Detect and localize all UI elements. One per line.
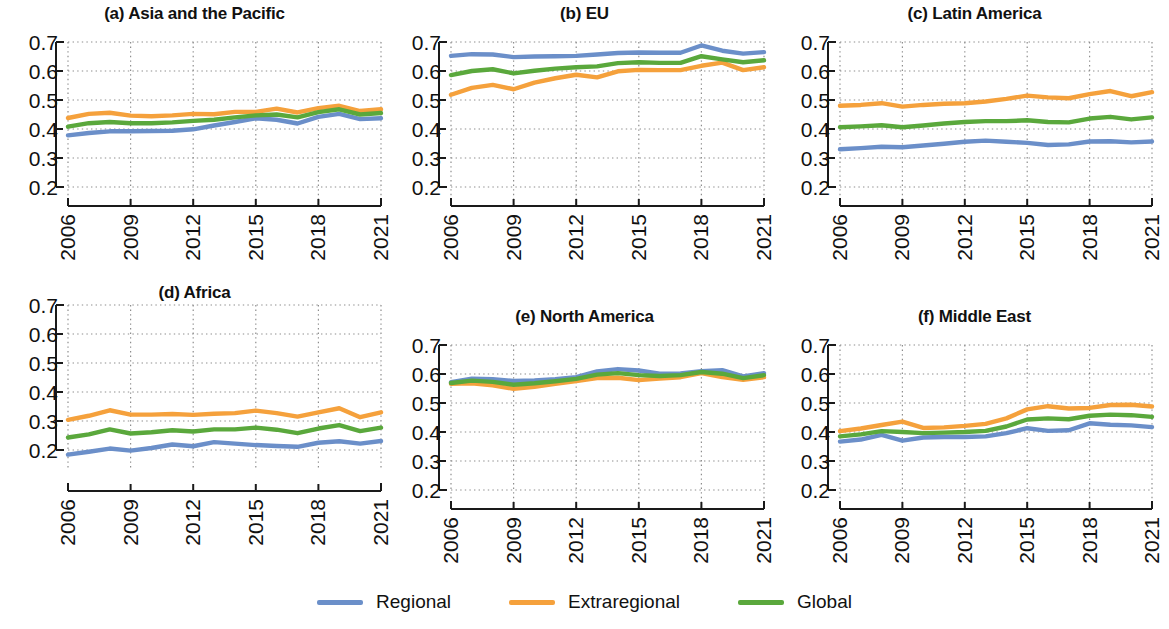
y-tick-label: 0.4 [29,381,59,404]
legend-item-regional: Regional [317,591,451,613]
y-tick-label: 0.7 [29,31,58,54]
y-tick-label: 0.4 [801,118,831,141]
x-tick-label: 2015 [244,214,267,261]
y-tick-label: 0.4 [412,421,442,444]
chart-grid: (a) Asia and the Pacific0.20.30.40.50.60… [0,0,1169,575]
chart-panel-d: (d) Africa0.20.30.40.50.60.7200620092012… [0,285,389,575]
y-tick-label: 0.5 [801,89,830,112]
y-tick-label: 0.3 [412,147,441,170]
x-tick-label: 2021 [369,499,389,546]
x-tick-label: 2012 [953,214,976,261]
series-line-global [68,425,381,437]
y-tick-label: 0.3 [801,147,830,170]
series-line-global [840,117,1152,127]
chart-panel-e: (e) North America0.20.30.40.50.60.720062… [389,285,780,575]
x-tick-label: 2006 [828,214,851,261]
y-tick-label: 0.2 [801,479,830,502]
y-tick-label: 0.6 [412,60,441,83]
x-tick-label: 2009 [890,517,913,564]
y-tick-label: 0.6 [29,323,58,346]
x-tick-label: 2009 [890,214,913,261]
y-tick-label: 0.7 [29,294,58,317]
legend-label-extraregional: Extraregional [568,591,680,613]
legend-swatch-extraregional [509,600,555,605]
x-tick-label: 2018 [1078,517,1101,564]
y-tick-label: 0.2 [412,479,441,502]
y-tick-label: 0.2 [412,176,441,199]
chart-panel-f: (f) Middle East0.20.30.40.50.60.72006200… [780,285,1169,575]
panel-plot: 0.20.30.40.50.60.72006200920122015201820… [0,285,389,575]
x-tick-label: 2021 [1140,517,1163,564]
x-tick-label: 2021 [369,214,389,261]
x-tick-label: 2015 [627,517,650,564]
y-tick-label: 0.3 [29,147,58,170]
y-tick-label: 0.5 [412,89,441,112]
x-tick-label: 2015 [1015,517,1038,564]
panel-plot: 0.20.30.40.50.60.72006200920122015201820… [389,0,780,285]
y-tick-label: 0.6 [801,363,830,386]
y-tick-label: 0.4 [29,118,59,141]
y-tick-label: 0.5 [29,352,58,375]
y-tick-label: 0.2 [801,176,830,199]
panel-plot: 0.20.30.40.50.60.72006200920122015201820… [0,0,389,285]
y-tick-label: 0.2 [29,439,58,462]
legend-swatch-global [738,600,784,605]
legend-item-extraregional: Extraregional [509,591,680,613]
x-tick-label: 2012 [181,214,204,261]
legend-label-global: Global [797,591,852,613]
x-tick-label: 2009 [502,517,525,564]
chart-legend: RegionalExtraregionalGlobal [0,575,1169,629]
x-tick-label: 2012 [953,517,976,564]
series-line-regional [840,141,1152,150]
y-tick-label: 0.6 [801,60,830,83]
y-tick-label: 0.5 [801,392,830,415]
legend-swatch-regional [317,600,363,605]
x-tick-label: 2018 [1078,214,1101,261]
y-tick-label: 0.5 [29,89,58,112]
y-tick-label: 0.2 [29,176,58,199]
x-tick-label: 2015 [1015,214,1038,261]
y-tick-label: 0.7 [801,31,830,54]
panel-plot: 0.20.30.40.50.60.72006200920122015201820… [780,0,1169,285]
y-tick-label: 0.7 [412,334,441,357]
y-tick-label: 0.3 [412,450,441,473]
x-tick-label: 2021 [752,214,775,261]
chart-panel-b: (b) EU0.20.30.40.50.60.72006200920122015… [389,0,780,285]
x-tick-label: 2009 [502,214,525,261]
y-tick-label: 0.7 [801,334,830,357]
x-tick-label: 2015 [627,214,650,261]
x-tick-label: 2006 [439,214,462,261]
y-tick-label: 0.4 [801,421,831,444]
series-line-extraregional [68,408,381,420]
panel-plot: 0.20.30.40.50.60.72006200920122015201820… [780,285,1169,575]
x-tick-label: 2021 [1140,214,1163,261]
x-tick-label: 2015 [244,499,267,546]
series-line-regional [451,45,764,57]
y-tick-label: 0.7 [412,31,441,54]
x-tick-label: 2012 [564,214,587,261]
chart-panel-c: (c) Latin America0.20.30.40.50.60.720062… [780,0,1169,285]
x-tick-label: 2018 [689,517,712,564]
y-tick-label: 0.6 [29,60,58,83]
series-line-regional [68,441,381,455]
x-tick-label: 2006 [56,499,79,546]
x-tick-label: 2018 [306,499,329,546]
chart-panel-a: (a) Asia and the Pacific0.20.30.40.50.60… [0,0,389,285]
y-tick-label: 0.3 [801,450,830,473]
y-tick-label: 0.4 [412,118,442,141]
y-tick-label: 0.5 [412,392,441,415]
series-line-extraregional [840,91,1152,107]
x-tick-label: 2009 [119,214,142,261]
x-tick-label: 2012 [181,499,204,546]
legend-item-global: Global [738,591,852,613]
y-tick-label: 0.6 [412,363,441,386]
x-tick-label: 2006 [828,517,851,564]
y-tick-label: 0.3 [29,410,58,433]
x-tick-label: 2012 [564,517,587,564]
x-tick-label: 2018 [689,214,712,261]
x-tick-label: 2018 [306,214,329,261]
x-tick-label: 2006 [56,214,79,261]
series-line-extraregional [451,63,764,95]
panel-plot: 0.20.30.40.50.60.72006200920122015201820… [389,285,780,575]
x-tick-label: 2021 [752,517,775,564]
